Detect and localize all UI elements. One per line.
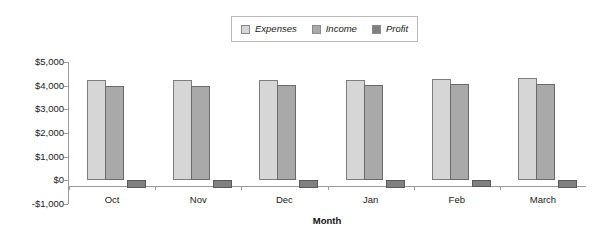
bar-groups: OctNovDecJanFebMarch — [69, 62, 586, 204]
bar-expenses[interactable] — [173, 80, 192, 181]
bar-income[interactable] — [364, 85, 383, 180]
y-tick-label: -$1,000 — [32, 199, 64, 209]
y-tick-mark — [64, 62, 68, 63]
x-tick-label: Oct — [69, 195, 155, 205]
y-tick-mark — [64, 204, 68, 205]
bar-income[interactable] — [277, 85, 296, 180]
bar-chart: Expenses Income Profit $5,000$4,000$3,00… — [0, 0, 604, 236]
x-tick-label: Dec — [241, 195, 327, 205]
bar-expenses[interactable] — [259, 80, 278, 181]
bar-expenses[interactable] — [346, 80, 365, 181]
bar-group: Jan — [328, 62, 414, 204]
chart-legend: Expenses Income Profit — [231, 16, 418, 42]
bar-expenses[interactable] — [518, 78, 537, 180]
y-tick-mark — [64, 133, 68, 134]
x-axis-title: Month — [68, 216, 586, 226]
bar-profit[interactable] — [472, 180, 491, 187]
legend-label-income: Income — [326, 24, 357, 34]
bar-profit[interactable] — [558, 180, 577, 188]
x-tick-mark — [69, 186, 70, 190]
x-tick-label: Feb — [414, 195, 500, 205]
legend-label-profit: Profit — [386, 24, 408, 34]
bar-group: Oct — [69, 62, 155, 204]
legend-label-expenses: Expenses — [255, 24, 297, 34]
bar-group: March — [500, 62, 586, 204]
bar-income[interactable] — [536, 84, 555, 180]
y-tick-label: $5,000 — [35, 57, 64, 67]
bar-profit[interactable] — [213, 180, 232, 188]
y-tick-label: $2,000 — [35, 128, 64, 138]
bar-expenses[interactable] — [432, 79, 451, 180]
x-tick-label: March — [500, 195, 586, 205]
legend-swatch-income — [312, 25, 321, 34]
y-tick-mark — [64, 157, 68, 158]
x-tick-mark — [414, 186, 415, 190]
bar-profit[interactable] — [299, 180, 318, 188]
bar-expenses[interactable] — [87, 80, 106, 181]
y-tick-mark — [64, 86, 68, 87]
legend-item-profit[interactable]: Profit — [372, 24, 408, 34]
bar-income[interactable] — [191, 86, 210, 181]
bar-profit[interactable] — [386, 180, 405, 188]
bar-group: Feb — [414, 62, 500, 204]
bar-group: Nov — [155, 62, 241, 204]
legend-swatch-expenses — [241, 25, 250, 34]
plot-area: $5,000$4,000$3,000$2,000$1,000$0-$1,000 … — [68, 62, 586, 204]
y-tick-mark — [64, 180, 68, 181]
y-tick-label: $4,000 — [35, 81, 64, 91]
y-tick-mark — [64, 109, 68, 110]
x-tick-label: Nov — [155, 195, 241, 205]
y-tick-label: $1,000 — [35, 152, 64, 162]
x-tick-mark — [500, 186, 501, 190]
x-tick-mark — [155, 186, 156, 190]
bar-income[interactable] — [450, 84, 469, 180]
bar-profit[interactable] — [127, 180, 146, 188]
y-tick-label: $3,000 — [35, 105, 64, 115]
x-tick-mark — [328, 186, 329, 190]
legend-item-income[interactable]: Income — [312, 24, 357, 34]
x-tick-label: Jan — [328, 195, 414, 205]
legend-swatch-profit — [372, 25, 381, 34]
y-tick-label: $0 — [53, 176, 64, 186]
legend-item-expenses[interactable]: Expenses — [241, 24, 297, 34]
bar-group: Dec — [241, 62, 327, 204]
x-tick-mark — [241, 186, 242, 190]
bar-income[interactable] — [105, 86, 124, 181]
